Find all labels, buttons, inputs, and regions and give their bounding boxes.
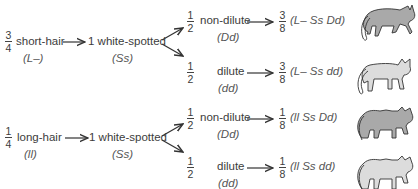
result-genotype-2a: (ll Ss Dd) (290, 111, 337, 123)
phenotype-long-hair: long-hair (17, 131, 62, 143)
result-genotype-1a: (L– Ss Dd) (290, 14, 345, 26)
genotype-long-hair: (ll) (24, 148, 37, 160)
fraction-result-1b: 38 (279, 61, 286, 84)
label-dilute-2: dilute (217, 160, 245, 172)
fraction-branch-1b: 12 (187, 61, 194, 84)
fraction-result-2b: 18 (279, 156, 286, 179)
result-genotype-2b: (ll Ss dd) (290, 160, 335, 172)
genotype-ss-2: (Ss) (112, 148, 133, 160)
fraction-result-2a: 18 (279, 107, 286, 130)
genotype-dd-nondilute-2: (Dd) (217, 128, 239, 140)
fraction-branch-2a: 12 (187, 107, 194, 130)
genotype-ss-1: (Ss) (112, 52, 133, 64)
fraction-short-hair: 34 (5, 30, 12, 53)
label-non-dilute-2: non-dilute (200, 111, 251, 123)
short-hair-dark-cat-icon (360, 2, 418, 44)
genotype-dd-dilute-2: (dd) (218, 177, 238, 189)
genotype-short-hair: (L–) (23, 52, 43, 64)
genotype-dd-dilute-1: (dd) (218, 82, 238, 94)
middle-white-spotted-2: 1 white-spotted (89, 131, 167, 143)
long-hair-dark-cat-icon (352, 102, 418, 142)
result-genotype-1b: (L– Ss dd) (290, 65, 343, 77)
phenotype-short-hair: short-hair (16, 35, 65, 47)
fraction-branch-1a: 12 (187, 10, 194, 33)
fraction-branch-2b: 12 (187, 156, 194, 179)
middle-white-spotted-1: 1 white-spotted (88, 35, 166, 47)
fraction-long-hair: 14 (5, 126, 12, 149)
label-non-dilute-1: non-dilute (200, 14, 251, 26)
genotype-dd-nondilute-1: (Dd) (217, 31, 239, 43)
fraction-result-1a: 38 (279, 10, 286, 33)
short-hair-light-cat-icon (352, 53, 418, 95)
long-hair-light-cat-icon (352, 149, 418, 189)
label-dilute-1: dilute (217, 65, 245, 77)
